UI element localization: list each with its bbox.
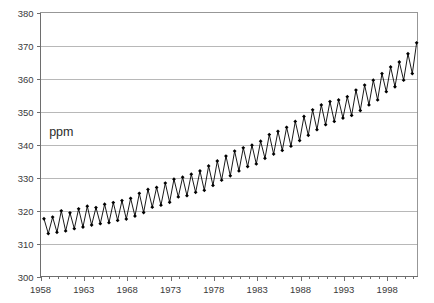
y-tick-label-310: 310 [18,239,34,250]
x-tick-label-1988: 1988 [290,284,311,295]
y-tick-label-320: 320 [18,206,34,217]
x-tick-label-1998: 1998 [377,284,398,295]
x-tick-label-1978: 1978 [203,284,224,295]
x-axis-tick-labels: 195819631968197319781983198819931998 [30,284,398,295]
x-tick-label-1963: 1963 [73,284,94,295]
y-tick-label-300: 300 [18,272,34,283]
x-tick-label-1968: 1968 [117,284,138,295]
y-axis-tick-labels: 300310320330340350360370380 [18,8,34,283]
x-tick-label-1958: 1958 [30,284,51,295]
y-tick-label-370: 370 [18,41,34,52]
y-tick-label-330: 330 [18,173,34,184]
co2-concentration-chart: 300310320330340350360370380 195819631968… [0,0,434,303]
chart-background [0,0,434,303]
y-tick-label-340: 340 [18,140,34,151]
x-tick-label-1993: 1993 [333,284,354,295]
x-tick-label-1983: 1983 [247,284,268,295]
x-tick-label-1973: 1973 [160,284,181,295]
y-tick-label-380: 380 [18,8,34,19]
chart-canvas: 300310320330340350360370380 195819631968… [0,0,434,303]
chart-annotations: ppm [49,125,73,139]
annotation-ppm: ppm [49,125,73,139]
y-tick-label-350: 350 [18,107,34,118]
y-tick-label-360: 360 [18,74,34,85]
